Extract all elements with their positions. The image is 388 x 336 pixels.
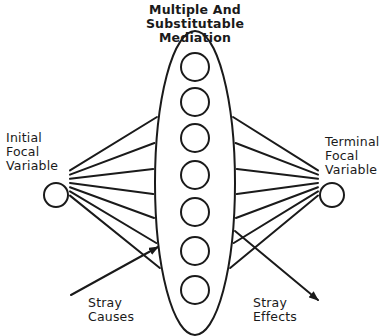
title-line-3: Mediation (128, 31, 262, 45)
stray-causes-line-2: Causes (88, 310, 134, 324)
title-line-2: Substitutable (128, 17, 262, 31)
mediation-ellipse (155, 31, 235, 335)
stray-causes-arrow (71, 247, 158, 295)
mediator-circle (181, 198, 209, 226)
stray-effects-arrow (235, 231, 318, 300)
left-label-line-1: Initial (6, 131, 58, 145)
mediator-circle (181, 161, 209, 189)
left-connection-line (70, 117, 157, 170)
terminal-focal-node (320, 183, 344, 207)
left-connection-line (70, 191, 156, 243)
right-connection-line (230, 196, 318, 268)
initial-focal-node (44, 183, 68, 207)
mediator-circle (181, 237, 209, 265)
stray-causes-line-1: Stray (88, 296, 134, 310)
right-fan-lines (230, 117, 318, 268)
right-label-line-1: Terminal (325, 135, 379, 149)
stray-effects-line-2: Effects (253, 310, 297, 324)
mediator-circle (181, 88, 209, 116)
terminal-focal-variable-label: Terminal Focal Variable (325, 135, 379, 177)
left-label-line-2: Focal (6, 145, 58, 159)
stray-effects-line-1: Stray (253, 296, 297, 310)
stray-effects-label: Stray Effects (253, 296, 297, 324)
title-line-1: Multiple And (128, 3, 262, 17)
mediator-circles (181, 53, 209, 304)
right-connection-line (233, 117, 318, 170)
right-label-line-3: Variable (325, 163, 379, 177)
left-label-line-3: Variable (6, 159, 58, 173)
right-label-line-2: Focal (325, 149, 379, 163)
stray-causes-label: Stray Causes (88, 296, 134, 324)
mediation-title: Multiple And Substitutable Mediation (128, 3, 262, 45)
left-connection-line (70, 196, 160, 268)
mediator-circle (181, 53, 209, 81)
mediator-circle (181, 124, 209, 152)
mediator-circle (181, 276, 209, 304)
initial-focal-variable-label: Initial Focal Variable (6, 131, 58, 173)
left-fan-lines (70, 117, 160, 268)
right-connection-line (234, 191, 318, 243)
